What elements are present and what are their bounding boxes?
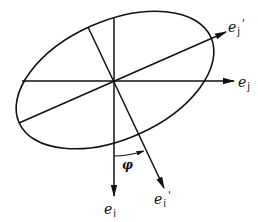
label-ei: ei xyxy=(104,202,116,216)
label-ej-prime-base: e xyxy=(228,19,236,35)
label-phi: φ xyxy=(122,159,133,171)
label-ei-prime: ei' xyxy=(154,192,171,206)
ellipse-axes-diagram xyxy=(0,0,258,222)
label-ei-prime-base: e xyxy=(154,191,162,207)
diagram-canvas: ej' ej ei ei' φ xyxy=(0,0,258,222)
label-ej-prime-sub: j xyxy=(237,26,240,37)
phi-angle-arc xyxy=(114,151,144,156)
label-ei-prime-sub: i xyxy=(163,198,166,209)
label-ei-sub: i xyxy=(113,208,116,219)
label-ej-prime: ej' xyxy=(228,20,245,34)
label-ej-sub: j xyxy=(247,81,250,92)
label-ej-prime-mark: ' xyxy=(242,18,245,29)
label-ej-base: e xyxy=(238,74,246,90)
label-ei-base: e xyxy=(104,201,112,217)
label-ei-prime-mark: ' xyxy=(168,190,171,201)
ej-prime-axis xyxy=(19,32,226,123)
label-ej: ej xyxy=(238,75,250,89)
